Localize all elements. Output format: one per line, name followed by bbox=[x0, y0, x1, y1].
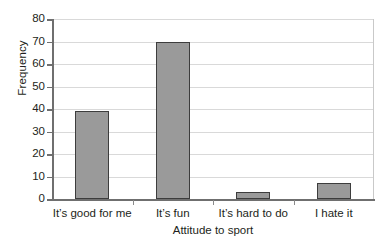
bar[interactable] bbox=[75, 111, 109, 199]
bar-chart: Frequency 01020304050607080 It’s good fo… bbox=[0, 0, 391, 252]
x-axis-tick-label: I hate it bbox=[294, 205, 375, 222]
bar-slot bbox=[133, 19, 214, 199]
y-axis-tick-label: 50 bbox=[3, 81, 45, 93]
y-axis-tick-label: 70 bbox=[3, 36, 45, 48]
y-axis-tick-label: 40 bbox=[3, 103, 45, 115]
bar-slot bbox=[213, 19, 294, 199]
x-axis-tick-label: It’s fun bbox=[133, 205, 214, 222]
bars-layer bbox=[52, 19, 374, 199]
bar[interactable] bbox=[156, 42, 190, 200]
y-axis-tick-label: 80 bbox=[3, 13, 45, 25]
bar-slot bbox=[52, 19, 133, 199]
x-axis-tick-labels: It’s good for meIt’s funIt’s hard to doI… bbox=[52, 205, 374, 222]
y-axis-tick-label: 30 bbox=[3, 126, 45, 138]
y-axis-tick-label: 0 bbox=[3, 193, 45, 205]
y-axis-tick-label: 60 bbox=[3, 58, 45, 70]
x-axis-tick-label: It’s hard to do bbox=[213, 205, 294, 222]
bar[interactable] bbox=[317, 183, 351, 199]
bar-slot bbox=[294, 19, 375, 199]
x-axis-tick-label: It’s good for me bbox=[52, 205, 133, 222]
y-axis-tick-label: 20 bbox=[3, 148, 45, 160]
y-axis-tick-label: 10 bbox=[3, 171, 45, 183]
bar[interactable] bbox=[236, 192, 270, 199]
x-axis-title: Attitude to sport bbox=[52, 224, 374, 236]
